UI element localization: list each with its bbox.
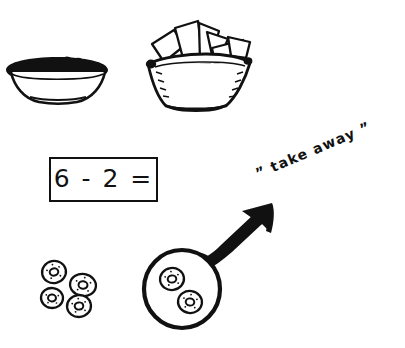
- loose-donuts-group: [40, 259, 98, 318]
- circled-donuts-group: [144, 250, 220, 328]
- equation-text: 6 - 2 =: [54, 166, 154, 191]
- bowl-of-cereal: [6, 57, 108, 104]
- donut: [68, 272, 97, 298]
- lasso-circle: [144, 250, 220, 328]
- basket-body: [148, 63, 250, 109]
- equation-box: 6 - 2 =: [49, 157, 158, 202]
- basket-nub-left: [146, 60, 156, 69]
- donut: [40, 287, 64, 309]
- basket-of-breadsticks: [146, 21, 253, 112]
- donut: [66, 294, 92, 318]
- basket-nub-right: [244, 57, 253, 65]
- worksheet-canvas: 6 - 2 = ” take away ”: [0, 0, 405, 348]
- donut: [40, 259, 68, 286]
